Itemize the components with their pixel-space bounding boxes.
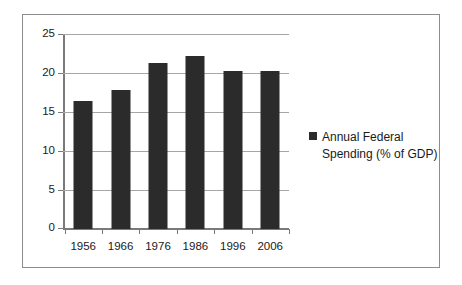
x-tick-mark-3 [177,229,178,234]
bar-1976[interactable] [148,63,167,229]
y-tick-mark-0 [58,228,63,229]
plot-area: 25 20 15 10 5 0 [63,34,289,229]
x-tick-mark-4 [214,229,215,234]
y-tick-mark-25 [58,34,63,35]
y-tick-mark-20 [58,73,63,74]
bar-2006[interactable] [261,71,280,229]
bar-slot-1976 [139,34,176,229]
y-tick-label-5: 5 [49,184,55,196]
x-tick-label-1986: 1986 [183,241,209,253]
x-tick-mark-2 [139,229,140,234]
x-tick-mark-5 [252,229,253,234]
bar-slot-1986 [177,34,214,229]
x-tick-mark-0 [65,229,66,234]
bar-slot-2006 [252,34,289,229]
bar-1956[interactable] [74,101,93,229]
x-tick-mark-1 [102,229,103,234]
y-tick-label-15: 15 [42,106,55,118]
chart-legend[interactable]: Annual Federal Spending (% of GDP) [309,129,440,163]
bar-slot-1956 [65,34,102,229]
x-tick-label-1996: 1996 [220,241,246,253]
x-tick-label-1976: 1976 [145,241,171,253]
y-tick-label-0: 0 [49,222,55,234]
x-tick-label-2006: 2006 [257,241,283,253]
legend-square-marker [309,132,317,140]
legend-item-label: Annual Federal Spending (% of GDP) [322,129,440,163]
y-tick-mark-15 [58,112,63,113]
x-tick-label-1966: 1966 [108,241,134,253]
chart-frame: 25 20 15 10 5 0 [22,14,440,268]
x-tick-label-1956: 1956 [70,241,96,253]
y-tick-label-20: 20 [42,67,55,79]
bars-layer [65,34,290,229]
y-tick-mark-5 [58,190,63,191]
y-tick-label-10: 10 [42,145,55,157]
bar-1996[interactable] [223,71,242,229]
bar-1986[interactable] [186,56,205,229]
y-tick-mark-10 [58,151,63,152]
bar-slot-1996 [214,34,251,229]
y-tick-label-25: 25 [42,28,55,40]
x-tick-mark-6 [289,229,290,234]
bar-slot-1966 [102,34,139,229]
bar-1966[interactable] [111,90,130,229]
